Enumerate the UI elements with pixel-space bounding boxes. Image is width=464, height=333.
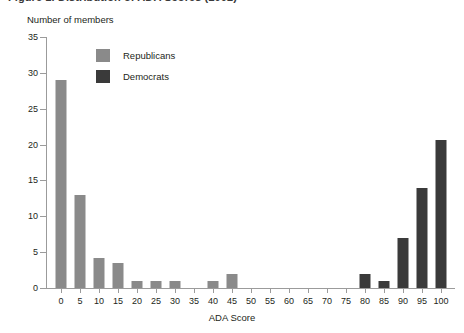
x-axis-tick-label: 30 [170,296,180,306]
x-axis-tick [327,288,328,293]
bar [56,80,67,288]
y-axis-tick [40,37,46,38]
x-axis-tick [213,288,214,293]
bar [94,258,105,288]
x-axis-tick-label: 80 [360,296,370,306]
bar [132,281,143,288]
x-axis-tick [80,288,81,293]
x-axis-tick [99,288,100,293]
x-axis-tick-label: 100 [433,296,448,306]
x-axis-tick [422,288,423,293]
x-axis-tick-label: 55 [265,296,275,306]
bar [398,238,409,288]
y-axis-tick-label: 35 [28,32,38,42]
x-axis-tick [365,288,366,293]
x-axis-tick [61,288,62,293]
bar [170,281,181,288]
plot-area: 05101520253035 0510152025303540455055606… [47,37,455,288]
bar [227,274,238,288]
y-axis-title: Number of members [27,14,114,25]
x-axis-tick [384,288,385,293]
y-axis-tick [40,288,46,289]
chart-page: Figure 1. Distribution of ADA Scores (20… [0,0,464,333]
y-axis-tick-label: 30 [28,68,38,78]
x-axis-tick-label: 40 [208,296,218,306]
x-axis-tick-label: 10 [94,296,104,306]
x-axis-tick [308,288,309,293]
x-axis-tick-label: 20 [132,296,142,306]
x-axis-tick [346,288,347,293]
x-axis-tick-label: 60 [284,296,294,306]
x-axis-tick-label: 45 [227,296,237,306]
x-axis-tick [289,288,290,293]
x-axis-tick-label: 25 [151,296,161,306]
x-axis-tick [441,288,442,293]
x-axis-tick-label: 70 [322,296,332,306]
y-axis-tick-label: 15 [28,175,38,185]
x-axis-tick [270,288,271,293]
y-axis-tick-label: 10 [28,211,38,221]
y-axis-tick [40,109,46,110]
x-axis-tick-label: 75 [341,296,351,306]
bar [208,281,219,288]
bar [75,195,86,288]
x-axis-tick-label: 85 [379,296,389,306]
figure-title: Figure 1. Distribution of ADA Scores (20… [8,0,237,3]
x-axis-tick [403,288,404,293]
x-axis-tick [251,288,252,293]
x-axis-title: ADA Score [0,312,464,323]
x-axis-tick-label: 65 [303,296,313,306]
x-axis-tick [232,288,233,293]
bar [379,281,390,288]
bar [360,274,371,288]
x-axis-tick [175,288,176,293]
y-axis-line [46,37,47,288]
y-axis-tick [40,73,46,74]
x-axis-tick [118,288,119,293]
x-axis-tick-label: 5 [77,296,82,306]
bar [417,188,428,288]
x-axis-tick-label: 15 [113,296,123,306]
y-axis-tick [40,145,46,146]
y-axis-tick-label: 0 [33,283,38,293]
x-axis-tick-label: 95 [417,296,427,306]
x-axis-tick-label: 35 [189,296,199,306]
y-axis-tick [40,252,46,253]
x-axis-tick [194,288,195,293]
bar [436,140,447,288]
x-axis-tick-label: 50 [246,296,256,306]
y-axis-tick [40,180,46,181]
x-axis-tick [156,288,157,293]
x-axis-tick [137,288,138,293]
y-axis-tick-label: 5 [33,247,38,257]
y-axis-tick [40,216,46,217]
bar [113,263,124,288]
x-axis-tick-label: 0 [58,296,63,306]
y-axis-tick-label: 20 [28,140,38,150]
x-axis-tick-label: 90 [398,296,408,306]
bar [151,281,162,288]
y-axis-tick-label: 25 [28,104,38,114]
